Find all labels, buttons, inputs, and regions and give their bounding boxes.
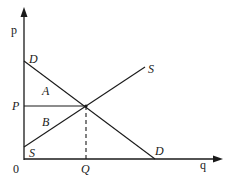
region-a-label: A	[41, 84, 50, 98]
y-axis-label: p	[11, 23, 17, 37]
region-b-label: B	[42, 115, 50, 129]
y-axis-arrow-icon	[21, 7, 28, 17]
price-label: P	[11, 99, 20, 113]
supply-demand-diagram: p q 0 D D S S P Q A B	[0, 0, 236, 180]
equilibrium-point	[84, 104, 87, 107]
origin-label: 0	[13, 162, 19, 176]
demand-label-bottom: D	[154, 144, 164, 158]
demand-label-top: D	[28, 52, 38, 66]
x-axis-arrow-icon	[213, 156, 223, 163]
demand-curve	[24, 61, 155, 159]
x-axis-label: q	[200, 158, 206, 172]
quantity-label: Q	[81, 162, 90, 176]
supply-label-top: S	[148, 62, 154, 76]
supply-label-bottom: S	[29, 146, 35, 160]
supply-curve	[24, 67, 145, 147]
